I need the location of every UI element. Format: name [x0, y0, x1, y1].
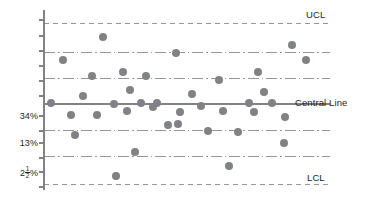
data-point [119, 68, 127, 76]
fraction-one-half: 12 [25, 166, 30, 180]
data-point [176, 108, 184, 116]
data-point [172, 49, 180, 57]
data-point [219, 107, 227, 115]
ucl-label: UCL [306, 9, 325, 20]
y-tick-label-34: 34% [8, 111, 38, 121]
data-point [88, 72, 96, 80]
data-point [254, 68, 262, 76]
reference-lines-group [44, 23, 330, 184]
data-point [137, 99, 145, 107]
data-point [281, 113, 289, 121]
control-chart: 34% 13% 212% UCL Central Line LCL [0, 0, 373, 200]
data-point [234, 128, 242, 136]
data-point [110, 100, 118, 108]
data-point [268, 99, 276, 107]
data-point [47, 99, 55, 107]
data-point [112, 172, 120, 180]
data-point [123, 107, 131, 115]
data-point [302, 56, 310, 64]
central-line-label: Central Line [295, 97, 347, 108]
data-point [164, 121, 172, 129]
data-points-group [47, 33, 310, 180]
data-point [225, 162, 233, 170]
data-point [153, 99, 161, 107]
y-tick-label-2-and-half: 212% [8, 166, 38, 180]
data-point [204, 127, 212, 135]
y-axis-group [39, 10, 44, 190]
fraction-percent-sign: % [30, 168, 38, 178]
data-point [250, 108, 258, 116]
data-point [280, 139, 288, 147]
data-point [174, 120, 182, 128]
data-point [288, 41, 296, 49]
data-point [59, 56, 67, 64]
data-point [99, 33, 107, 41]
data-point [197, 102, 205, 110]
data-point [67, 111, 75, 119]
fraction-denominator: 2 [25, 173, 30, 180]
data-point [260, 88, 268, 96]
data-point [215, 76, 223, 84]
data-point [126, 86, 134, 94]
lcl-label: LCL [307, 172, 325, 183]
data-point [245, 99, 253, 107]
data-point [188, 90, 196, 98]
data-point [131, 148, 139, 156]
data-point [71, 131, 79, 139]
data-point [142, 72, 150, 80]
y-tick-label-13: 13% [8, 138, 38, 148]
data-point [93, 111, 101, 119]
data-point [79, 92, 87, 100]
